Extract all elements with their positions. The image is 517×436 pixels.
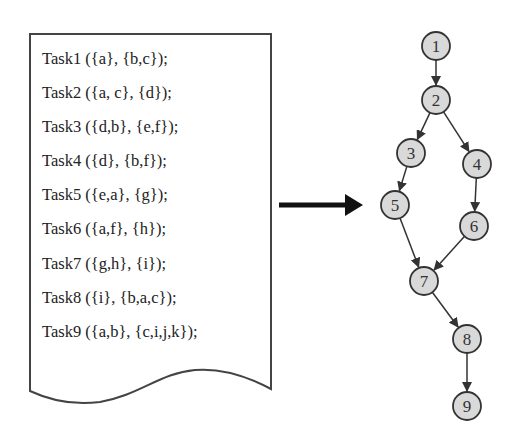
task-line: Task6 ({a,f}, {h}); <box>42 218 198 252</box>
node-3: 3 <box>397 139 425 167</box>
task-line: Task9 ({a,b}, {c,i,j,k}); <box>42 321 198 355</box>
node-7: 7 <box>410 267 438 295</box>
task-graph-nodes: 123456789 <box>381 32 491 420</box>
node-label: 9 <box>463 397 472 416</box>
node-2: 2 <box>422 86 450 114</box>
edge-5-7 <box>400 218 419 267</box>
node-label: 4 <box>473 155 482 174</box>
node-4: 4 <box>463 150 491 178</box>
node-1: 1 <box>422 32 450 60</box>
task-line: Task2 ({a, c}, {d}); <box>42 82 198 116</box>
node-label: 8 <box>463 330 472 349</box>
edge-2-3 <box>417 113 430 140</box>
node-label: 6 <box>470 217 479 236</box>
node-6: 6 <box>460 212 488 240</box>
node-5: 5 <box>381 191 409 219</box>
edge-2-4 <box>444 112 469 152</box>
node-label: 7 <box>420 272 429 291</box>
diagram-canvas: 123456789 Task1 ({a}, {b,c}); Task2 ({a,… <box>0 0 517 436</box>
task-line: Task8 ({i}, {b,a,c}); <box>42 287 198 321</box>
task-line: Task4 ({d}, {b,f}); <box>42 150 198 184</box>
node-label: 2 <box>432 91 441 110</box>
task-line: Task3 ({d,b}, {e,f}); <box>42 116 198 150</box>
node-label: 3 <box>407 144 416 163</box>
node-8: 8 <box>453 325 481 353</box>
task-line: Task7 ({g,h}, {i}); <box>42 253 198 287</box>
task-line: Task5 ({e,a}, {g}); <box>42 184 198 218</box>
node-label: 1 <box>432 37 441 56</box>
edge-3-5 <box>399 166 406 190</box>
edge-4-6 <box>475 178 477 211</box>
transform-arrow-icon <box>279 194 363 216</box>
node-label: 5 <box>391 196 400 215</box>
task-list: Task1 ({a}, {b,c}); Task2 ({a, c}, {d});… <box>42 48 198 355</box>
edge-7-8 <box>432 292 458 327</box>
task-line: Task1 ({a}, {b,c}); <box>42 48 198 82</box>
node-9: 9 <box>453 392 481 420</box>
edge-6-7 <box>434 236 464 270</box>
